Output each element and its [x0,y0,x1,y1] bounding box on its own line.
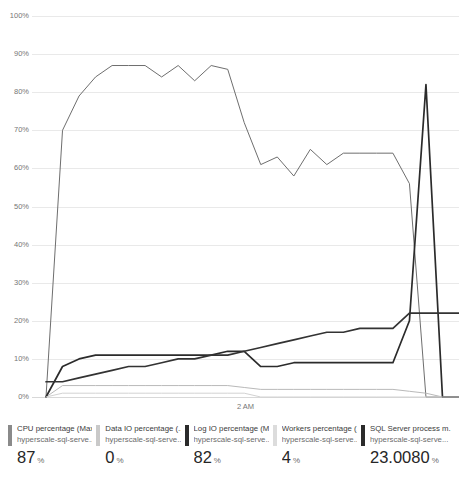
x-axis-tick-label: 2 AM [237,402,254,411]
legend-metric-unit: % [214,455,221,466]
legend-metric-name: Workers percentage (... [282,424,357,434]
legend-item[interactable]: CPU percentage (Max)hyperscale-sql-serve… [8,424,96,470]
y-axis-tick-label: 100% [10,12,29,20]
legend-metric-unit: % [432,455,439,466]
chart-legend: CPU percentage (Max)hyperscale-sql-serve… [8,424,455,474]
legend-metric-unit: % [293,455,300,466]
legend-metric-value: 0 [105,449,114,466]
legend-resource-name: hyperscale-sql-serve... [105,435,180,445]
legend-resource-name: hyperscale-sql-serve... [282,435,357,445]
legend-resource-name: hyperscale-sql-serve... [370,435,451,445]
legend-metric-name: Log IO percentage (Max) [194,424,269,434]
legend-metric-value: 82 [194,449,212,466]
y-axis-tick-label: 90% [14,50,29,58]
y-axis-tick-label: 60% [14,164,29,172]
legend-color-swatch [185,425,189,446]
legend-metric-unit: % [37,455,44,466]
y-axis-tick-label: 10% [14,355,29,363]
chart-line-series [46,313,459,382]
legend-metric-name: SQL Server process m... [370,424,451,434]
legend-item[interactable]: Workers percentage (...hyperscale-sql-se… [273,424,361,470]
legend-metric-value: 23.0080 [370,449,430,466]
legend-resource-name: hyperscale-sql-serve... [17,435,92,445]
legend-item[interactable]: Data IO percentage (...hyperscale-sql-se… [96,424,184,470]
legend-item[interactable]: SQL Server process m...hyperscale-sql-se… [361,424,455,470]
chart-plot-region[interactable]: 100%90%80%70%60%50%40%30%20%10%0% 2 AM [0,0,459,412]
legend-color-swatch [361,425,365,446]
y-axis-tick-label: 0% [18,393,29,401]
legend-metric-unit: % [116,455,123,466]
legend-color-swatch [8,425,12,446]
y-axis: 100%90%80%70%60%50%40%30%20%10%0% [0,0,32,412]
y-axis-tick-label: 20% [14,317,29,325]
legend-color-swatch [96,425,100,446]
legend-metric-name: CPU percentage (Max) [17,424,92,434]
chart-series-svg [32,0,459,412]
legend-metric-value: 87 [17,449,35,466]
y-axis-tick-label: 70% [14,126,29,134]
y-axis-tick-label: 50% [14,203,29,211]
legend-resource-name: hyperscale-sql-serve... [194,435,269,445]
legend-metric-name: Data IO percentage (... [105,424,180,434]
chart-line-series [46,66,459,397]
legend-color-swatch [273,425,277,446]
metrics-chart-widget: 100%90%80%70%60%50%40%30%20%10%0% 2 AM C… [0,0,459,478]
legend-metric-value: 4 [282,449,291,466]
y-axis-tick-label: 40% [14,241,29,249]
y-axis-tick-label: 30% [14,279,29,287]
y-axis-tick-label: 80% [14,88,29,96]
chart-line-series [46,393,459,397]
legend-item[interactable]: Log IO percentage (Max)hyperscale-sql-se… [185,424,273,470]
x-axis: 2 AM [32,398,459,414]
